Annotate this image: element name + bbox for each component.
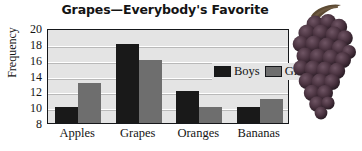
y-axis-tick-label: 14: [30, 71, 42, 83]
bar-bananas-boys: [237, 107, 260, 123]
bar-apples-girls: [78, 83, 101, 123]
chart-title: Grapes—Everybody's Favorite: [40, 2, 290, 17]
legend-item-boys: Boys: [214, 65, 260, 78]
bar-grapes-boys: [116, 44, 139, 123]
y-axis-tick-label: 8: [36, 118, 42, 130]
y-axis-tick-labels: 2018161412108: [16, 29, 44, 124]
y-axis-tick-label: 18: [30, 39, 42, 51]
y-axis-tick-label: 12: [30, 86, 42, 98]
grape-cluster-illustration: [279, 2, 359, 132]
y-axis-tick-label: 10: [30, 102, 42, 114]
plot-area: BoysGirls: [47, 29, 289, 124]
x-axis-tick-labels: ApplesGrapesOrangesBananas: [47, 126, 289, 146]
chart-figure: Grapes—Everybody's Favorite Frequency 20…: [0, 0, 362, 151]
x-axis-tick-label-grapes: Grapes: [108, 126, 169, 141]
bar-apples-boys: [55, 107, 78, 123]
y-axis-tick-label: 20: [30, 23, 42, 35]
legend-label-boys: Boys: [234, 65, 260, 78]
x-axis-tick-label-oranges: Oranges: [168, 126, 229, 141]
bar-grapes-girls: [139, 60, 162, 123]
bar-oranges-boys: [176, 91, 199, 123]
x-axis-tick-label-apples: Apples: [47, 126, 108, 141]
bar-oranges-girls: [199, 107, 222, 123]
legend-swatch-boys-icon: [214, 66, 231, 77]
y-axis-tick-label: 16: [30, 55, 42, 67]
